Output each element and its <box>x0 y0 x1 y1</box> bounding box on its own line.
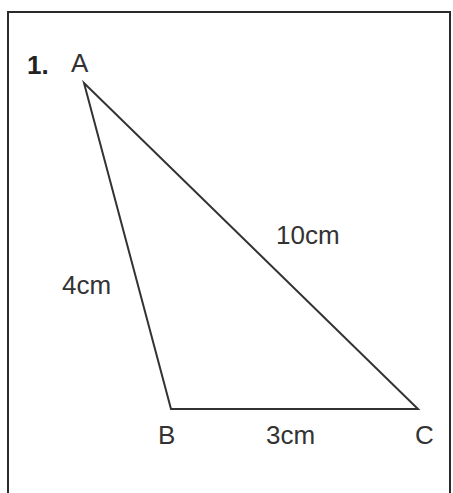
side-label-ac: 10cm <box>276 222 340 248</box>
triangle-abc <box>84 83 418 409</box>
vertex-label-c: C <box>415 422 434 448</box>
side-label-ab: 4cm <box>62 272 111 298</box>
vertex-label-a: A <box>71 50 88 76</box>
question-number: 1. <box>27 52 49 78</box>
side-label-bc: 3cm <box>266 422 315 448</box>
vertex-label-b: B <box>158 422 175 448</box>
